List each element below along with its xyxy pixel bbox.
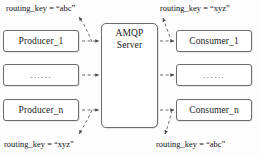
consumer-node-ellipsis-label: ......: [203, 70, 225, 80]
consumer-node-n: Consumer_n: [176, 99, 252, 121]
amqp-server-label-line2: Server: [116, 40, 144, 52]
routing-key-label-top-right: routing_key = “xyz”: [160, 4, 230, 13]
producer-node-ellipsis-label: ......: [30, 70, 52, 80]
amqp-server-label-line1: AMQP: [116, 28, 144, 40]
consumer-node-n-label: Consumer_n: [189, 105, 239, 116]
consumer-node-ellipsis: ......: [176, 64, 252, 86]
consumer-node-1-label: Consumer_1: [189, 36, 239, 47]
producer-node-1: Producer_1: [3, 30, 79, 52]
consumer-node-1: Consumer_1: [176, 30, 252, 52]
producer-node-n-label: Producer_n: [19, 105, 64, 116]
diagram-canvas: routing_key = “abc” routing_key = “xyz” …: [0, 0, 258, 157]
producer-node-1-label: Producer_1: [19, 36, 64, 47]
routing-key-label-bottom-left: routing_key = “xyz”: [4, 140, 74, 149]
producer-node-n: Producer_n: [3, 99, 79, 121]
amqp-server-node: AMQP Server: [101, 23, 158, 128]
routing-key-label-top-left: routing_key = “abc”: [6, 4, 75, 13]
arrow-routing-key-top-right: [163, 18, 172, 42]
routing-key-label-bottom-right: routing_key = “abc”: [156, 140, 225, 149]
arrow-routing-key-bottom-left: [79, 110, 92, 134]
arrow-routing-key-bottom-right: [165, 110, 172, 134]
producer-node-ellipsis: ......: [3, 64, 79, 86]
arrow-routing-key-top-left: [79, 17, 92, 42]
